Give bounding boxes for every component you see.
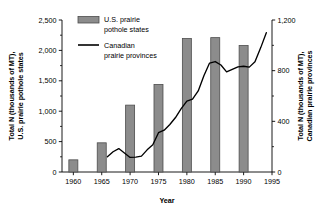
x-tick-label-1: 1965 xyxy=(94,177,110,186)
legend-label-canada-line2: prairie provinces xyxy=(104,51,157,60)
bar-1970 xyxy=(126,105,135,172)
right-axis-title: Total N (thousands of MT), Canadian prai… xyxy=(296,50,314,141)
right-axis-title-line2: Canadian prairie provinces xyxy=(305,50,314,141)
left-tick-label-2: 1,000 xyxy=(39,107,57,116)
right-tick-label-0: 0 xyxy=(278,168,282,177)
x-tick-label-0: 1960 xyxy=(65,177,81,186)
left-axis-title-line2: U.S. prairie pothole states xyxy=(16,52,25,139)
legend-label-us-line2: pothole states xyxy=(104,25,149,34)
left-axis-title-line1: Total N (thousands of MT), xyxy=(7,52,16,141)
x-tick-label-6: 1990 xyxy=(236,177,252,186)
x-tick-label-2: 1970 xyxy=(122,177,138,186)
left-tick-label-4: 2,000 xyxy=(39,46,57,55)
x-axis-title: Year xyxy=(160,196,175,205)
right-axis-title-line1: Total N (thousands of MT), xyxy=(296,52,305,141)
bar-1960 xyxy=(69,160,78,172)
right-tick-label-3: 1,200 xyxy=(278,16,296,25)
bar-1990 xyxy=(239,46,248,172)
legend-swatch-bar xyxy=(78,17,99,24)
bar-1965 xyxy=(97,143,106,172)
left-tick-label-5: 2,500 xyxy=(39,16,57,25)
x-tick-label-5: 1985 xyxy=(207,177,223,186)
left-axis-title: Total N (thousands of MT), U.S. prairie … xyxy=(7,52,25,141)
left-tick-label-3: 1,500 xyxy=(39,76,57,85)
bar-1985 xyxy=(211,38,220,172)
chart-figure: 05001,0001,5002,0002,500 04008001,200 19… xyxy=(0,0,325,211)
left-tick-label-0: 0 xyxy=(53,168,57,177)
legend-label-us-line1: U.S. prairie xyxy=(104,15,140,24)
right-tick-label-1: 400 xyxy=(278,117,290,126)
x-tick-label-4: 1980 xyxy=(179,177,195,186)
x-tick-label-7: 1995 xyxy=(264,177,280,186)
legend-label-canada-line1: Canadian xyxy=(104,41,135,50)
chart-canvas: 05001,0001,5002,0002,500 04008001,200 19… xyxy=(0,0,325,211)
x-tick-label-3: 1975 xyxy=(150,177,166,186)
left-tick-label-1: 500 xyxy=(45,137,57,146)
right-tick-label-2: 800 xyxy=(278,66,290,75)
bar-1975 xyxy=(154,84,163,172)
